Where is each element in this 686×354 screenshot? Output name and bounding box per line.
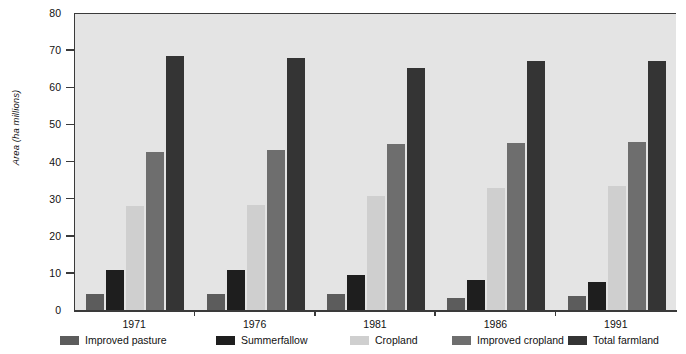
- legend-item-improved-cropland[interactable]: Improved cropland: [452, 333, 564, 347]
- bar-improved-pasture-1991: [568, 296, 586, 310]
- x-axis-label-1971: 1971: [94, 318, 174, 330]
- legend-item-improved-pasture[interactable]: Improved pasture: [60, 333, 167, 347]
- bar-improved-pasture-1976: [207, 294, 225, 310]
- x-axis-tick: [555, 310, 557, 316]
- y-axis-tick-label: 20: [21, 230, 61, 242]
- legend-label: Total farmland: [593, 335, 659, 346]
- x-axis-tick: [434, 310, 436, 316]
- x-axis-tick: [314, 310, 316, 316]
- bar-total-farmland-1976: [287, 58, 305, 310]
- y-axis-tick-label: 80: [21, 7, 61, 19]
- y-axis-tick: [66, 87, 75, 89]
- bar-total-farmland-1981: [407, 68, 425, 310]
- legend-label: Improved cropland: [477, 335, 564, 346]
- bar-cropland-1986: [487, 188, 505, 311]
- y-axis-tick: [66, 161, 75, 163]
- x-axis-label-1986: 1986: [455, 318, 535, 330]
- bar-improved-cropland-1981: [387, 144, 405, 310]
- bar-improved-cropland-1991: [628, 142, 646, 310]
- bar-summerfallow-1976: [227, 270, 245, 310]
- x-axis-label-1981: 1981: [335, 318, 415, 330]
- y-axis-tick: [66, 198, 75, 200]
- bar-total-farmland-1971: [166, 56, 184, 310]
- y-axis-tick: [66, 124, 75, 126]
- bar-cropland-1971: [126, 206, 144, 310]
- bar-chart-figure: Area (ha millions) 01020304050607080 197…: [0, 0, 686, 354]
- y-axis-tick-label: 30: [21, 193, 61, 205]
- bar-summerfallow-1986: [467, 280, 485, 310]
- legend-item-total-farmland[interactable]: Total farmland: [568, 333, 659, 347]
- y-axis-tick-label: 0: [21, 304, 61, 316]
- x-axis-tick: [194, 310, 196, 316]
- plot-area: [74, 13, 676, 310]
- bar-improved-pasture-1986: [447, 298, 465, 310]
- y-axis-tick-label: 40: [21, 156, 61, 168]
- x-axis-line: [74, 310, 677, 312]
- bar-summerfallow-1981: [347, 275, 365, 310]
- bar-cropland-1991: [608, 186, 626, 310]
- legend-swatch-icon: [350, 336, 369, 345]
- legend-item-summerfallow[interactable]: Summerfallow: [216, 333, 308, 347]
- y-axis-tick: [66, 272, 75, 274]
- legend-item-cropland[interactable]: Cropland: [350, 333, 418, 347]
- bar-improved-cropland-1971: [146, 152, 164, 310]
- y-axis-tick-label: 70: [21, 44, 61, 56]
- y-axis-tick-label: 50: [21, 118, 61, 130]
- bar-improved-pasture-1981: [327, 294, 345, 310]
- bar-improved-cropland-1976: [267, 150, 285, 310]
- bar-total-farmland-1986: [527, 61, 545, 310]
- y-axis-tick-label: 10: [21, 267, 61, 279]
- bar-cropland-1981: [367, 196, 385, 310]
- legend-swatch-icon: [60, 336, 79, 345]
- legend-label: Cropland: [375, 335, 418, 346]
- y-axis-tick: [66, 49, 75, 51]
- bar-improved-cropland-1986: [507, 143, 525, 310]
- legend-label: Improved pasture: [85, 335, 167, 346]
- bar-improved-pasture-1971: [86, 294, 104, 310]
- legend-swatch-icon: [568, 336, 587, 345]
- legend-label: Summerfallow: [241, 335, 308, 346]
- y-axis-title: Area (ha millions): [10, 63, 21, 193]
- bar-cropland-1976: [247, 205, 265, 310]
- legend-swatch-icon: [452, 336, 471, 345]
- bar-total-farmland-1991: [648, 61, 666, 310]
- bar-summerfallow-1971: [106, 270, 124, 310]
- chart-legend: Improved pastureSummerfallowCroplandImpr…: [0, 333, 686, 349]
- x-axis-label-1991: 1991: [576, 318, 656, 330]
- x-axis-label-1976: 1976: [215, 318, 295, 330]
- bar-summerfallow-1991: [588, 282, 606, 310]
- y-axis-tick: [66, 235, 75, 237]
- legend-swatch-icon: [216, 336, 235, 345]
- y-axis-tick-label: 60: [21, 81, 61, 93]
